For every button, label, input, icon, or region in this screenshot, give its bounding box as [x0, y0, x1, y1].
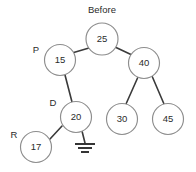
- edge-20-to-null: [82, 131, 85, 143]
- edge-40-to-45: [152, 76, 164, 104]
- node-40-value: 40: [139, 57, 150, 68]
- edge-25-to-40: [115, 47, 132, 55]
- node-45[interactable]: 45: [153, 104, 184, 135]
- node-45-value: 45: [163, 113, 174, 124]
- node-20[interactable]: 20: [61, 102, 92, 133]
- node-17[interactable]: 17: [21, 132, 52, 163]
- pointer-label-p: P: [33, 44, 39, 55]
- node-40[interactable]: 40: [129, 48, 160, 79]
- node-25[interactable]: 25: [86, 23, 118, 55]
- binary-tree-diagram: 25 15 40 20 30 45 17 P D R: [0, 0, 196, 172]
- node-30-value: 30: [117, 113, 128, 124]
- null-pointer-ground-icon: [75, 144, 95, 152]
- node-15[interactable]: 15: [45, 45, 76, 76]
- pointer-label-d: D: [50, 97, 57, 108]
- edge-25-to-15: [72, 48, 89, 53]
- pointer-label-r: R: [11, 129, 18, 140]
- edge-15-to-20: [65, 75, 72, 102]
- diagram-title: Before: [88, 4, 116, 15]
- node-30[interactable]: 30: [107, 104, 138, 135]
- edge-40-to-30: [126, 77, 138, 104]
- node-20-value: 20: [71, 111, 82, 122]
- edge-20-to-17: [50, 126, 62, 139]
- node-25-value: 25: [97, 33, 108, 44]
- tree-canvas: 25 15 40 20 30 45 17 P D R: [0, 0, 196, 172]
- node-17-value: 17: [31, 141, 42, 152]
- node-15-value: 15: [55, 54, 66, 65]
